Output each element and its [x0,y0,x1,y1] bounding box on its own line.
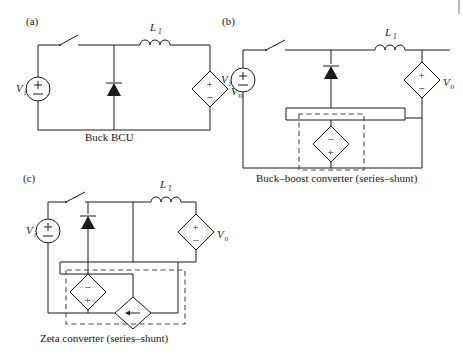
output-source-b-minus: − [419,82,425,94]
dependent-voltage-source-c-minus: − [85,281,91,293]
panel-b-label: (b) [222,15,235,28]
inductor-a-sub: 1 [158,27,162,36]
output-source-c-plus: + [193,221,199,233]
page-edge-artifact [458,0,460,14]
output-source-a-plus: + [207,78,213,90]
inductor-a-label: L [149,21,156,33]
panel-a-caption: Buck BCU [85,131,134,143]
switch-a-pivot [59,44,61,46]
circuit-figure: (a) L 1 V i + − V o [0,0,463,357]
diode-c-triangle [81,216,95,229]
input-source-c-sub: i [34,230,36,239]
panel-c-label: (c) [23,172,36,185]
panel-a: (a) L 1 V i + − V o [16,15,243,143]
dependent-source-b-minus: − [328,133,334,145]
output-source-c-sub: o [225,234,229,243]
panel-a-label: (a) [26,15,39,28]
panel-b: (b) L 1 V i + − V o [221,15,455,185]
output-source-a-minus: − [207,91,213,103]
inductor-b-coil [375,45,405,50]
input-source-b-sub: i [229,79,231,88]
diode-a-triangle [107,83,121,96]
input-source-a-sub: i [24,88,26,97]
switch-b-pivot [265,49,267,51]
output-source-b-plus: + [419,69,425,81]
inductor-b-sub: 1 [393,32,397,41]
switch-c-blade [66,192,85,202]
panel-c: (c) L 1 V i + − V o [23,172,229,345]
dependent-source-b-plus: + [328,146,334,158]
output-source-b-sub: o [451,82,455,91]
switch-a-blade [60,35,78,45]
dependent-voltage-source-c-plus: + [85,294,91,306]
inductor-c-coil [151,197,181,202]
diode-b-triangle [324,66,338,79]
inductor-a-coil [140,40,170,45]
output-source-c-minus: − [193,234,199,246]
input-source-a-label: V [16,82,24,94]
inductor-b-label: L [384,26,391,38]
inductor-c-sub: 1 [168,184,172,193]
panel-b-caption: Buck–boost converter (series–shunt) [256,172,418,185]
switch-b-blade [266,40,285,50]
inductor-c-label: L [159,178,166,190]
panel-c-caption: Zeta converter (series–shunt) [40,332,169,345]
input-source-b-label: V [221,73,229,85]
input-source-c-label: V [26,224,34,236]
switch-c-pivot [65,201,67,203]
